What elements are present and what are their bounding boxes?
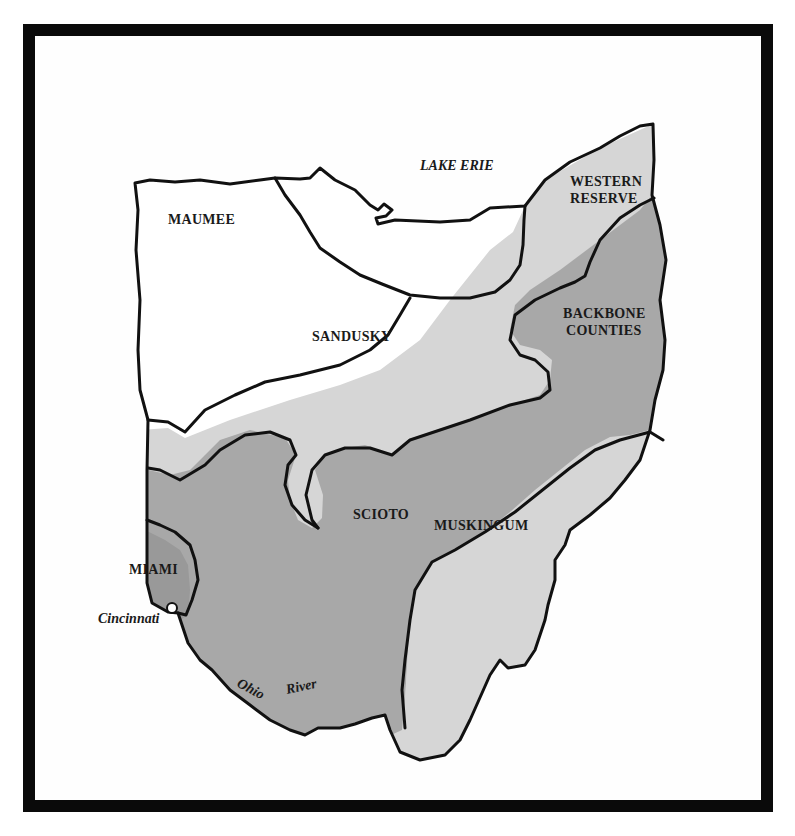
muskingum-label: MUSKINGUM	[434, 518, 528, 533]
western-reserve-label-line1: WESTERN	[570, 174, 642, 189]
scioto-label: SCIOTO	[353, 507, 409, 522]
ohio-map: LAKE ERIE MAUMEE SANDUSKY WESTERN RESERV…	[0, 0, 795, 836]
miami-label: MIAMI	[129, 562, 178, 577]
backbone-counties-label-line2: COUNTIES	[566, 323, 642, 338]
cincinnati-label: Cincinnati	[98, 611, 160, 626]
backbone-counties-label-line1: BACKBONE	[563, 306, 646, 321]
lake-erie-label: LAKE ERIE	[419, 158, 494, 173]
cincinnati-city-marker	[167, 603, 177, 613]
western-reserve-label-line2: RESERVE	[570, 191, 638, 206]
sandusky-label: SANDUSKY	[312, 329, 391, 344]
maumee-label: MAUMEE	[168, 212, 235, 227]
